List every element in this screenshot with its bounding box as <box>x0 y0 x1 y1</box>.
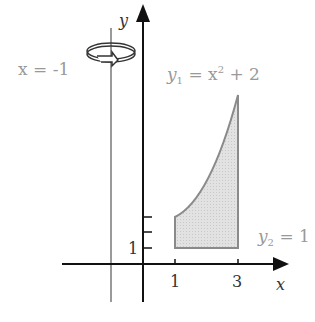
x-tick-label-1: 1 <box>170 272 180 291</box>
volume-of-revolution-diagram: y x x = -1 1 3 1 y1 = x2 + 2 y2 = 1 <box>0 0 315 322</box>
x-tick-label-3: 3 <box>232 272 242 291</box>
y-axis-label: y <box>118 11 129 30</box>
rotation-axis-label: x = -1 <box>18 59 69 79</box>
curve-label: y1 = x2 + 2 <box>166 64 260 86</box>
x-axis-label: x <box>276 275 285 294</box>
line-label: y2 = 1 <box>257 226 310 248</box>
shaded-region <box>175 95 238 248</box>
y-axis-arrow-icon <box>136 4 150 22</box>
x-axis-arrow-icon <box>273 257 289 271</box>
y-tick-label-1: 1 <box>128 239 138 258</box>
